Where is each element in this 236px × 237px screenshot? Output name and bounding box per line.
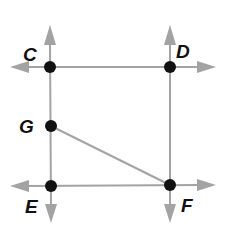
arrowhead-up-icon [44, 25, 56, 45]
label-e: E [25, 196, 39, 217]
arrowhead-right-icon [197, 61, 216, 73]
label-f: F [181, 195, 194, 216]
line-ef [10, 179, 216, 192]
segment-gf [51, 126, 170, 185]
arrowhead-down-icon [45, 204, 57, 223]
point-d [164, 61, 176, 73]
point-c [44, 61, 56, 73]
label-c: C [23, 44, 37, 65]
geometry-diagram: C D G E F [0, 0, 236, 237]
line-df [164, 25, 176, 223]
arrowhead-up-icon [164, 25, 176, 45]
point-f [164, 179, 176, 191]
arrowhead-left-icon [10, 180, 29, 192]
point-e [45, 180, 57, 192]
arrowhead-right-icon [197, 179, 216, 191]
line-cd [10, 61, 216, 73]
label-d: D [176, 41, 190, 62]
arrowhead-down-icon [164, 204, 176, 223]
label-g: G [19, 116, 34, 137]
point-g [45, 120, 57, 132]
